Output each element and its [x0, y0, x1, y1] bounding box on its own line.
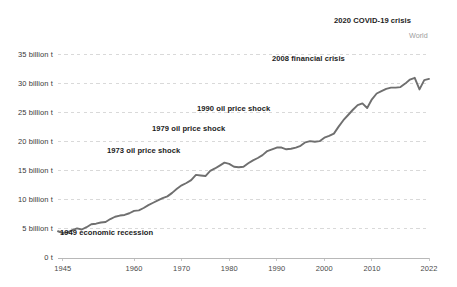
x-axis-tick-label: 1970 [162, 264, 202, 273]
y-axis-tick-label: 35 billion t [0, 50, 53, 59]
x-axis-tick-label: 2010 [352, 264, 392, 273]
annotation-label: 2008 financial crisis [272, 54, 345, 63]
y-axis-tick-label: 30 billion t [0, 79, 53, 88]
x-axis-tick-label: 1990 [257, 264, 297, 273]
y-axis-tick-label: 0 t [0, 253, 53, 262]
x-axis-tick-label: 1960 [114, 264, 154, 273]
series-line-world [58, 78, 429, 233]
annotation-label: 1973 oil price shock [107, 146, 180, 155]
x-axis-tick-label: 2022 [409, 264, 449, 273]
y-axis-tick-label: 15 billion t [0, 166, 53, 175]
emissions-line-chart: 0 t5 billion t10 billion t15 billion t20… [0, 0, 457, 287]
y-axis-tick-label: 5 billion t [0, 224, 53, 233]
series-label-world: World [409, 31, 428, 40]
annotation-label: 1990 oil price shock [197, 104, 270, 113]
x-axis-tick-label: 1980 [209, 264, 249, 273]
x-axis-tick-label: 2000 [304, 264, 344, 273]
x-axis-tick-label: 1945 [43, 264, 83, 273]
annotation-label: 2020 COVID-19 crisis [334, 16, 411, 25]
chart-plot-area [0, 0, 457, 287]
annotation-label: 1979 oil price shock [152, 124, 225, 133]
y-axis-tick-label: 10 billion t [0, 195, 53, 204]
y-axis-tick-label: 20 billion t [0, 137, 53, 146]
annotation-label: 1949 economic recession [60, 228, 153, 237]
y-axis-tick-label: 25 billion t [0, 108, 53, 117]
